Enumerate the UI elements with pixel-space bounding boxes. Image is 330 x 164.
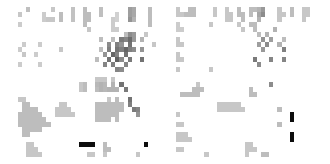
- left-heatmap-panel: [14, 7, 160, 157]
- right-heatmap-canvas: [172, 7, 318, 157]
- left-heatmap-canvas: [14, 7, 160, 157]
- heatmap-figure: [0, 0, 330, 164]
- right-heatmap-panel: [172, 7, 318, 157]
